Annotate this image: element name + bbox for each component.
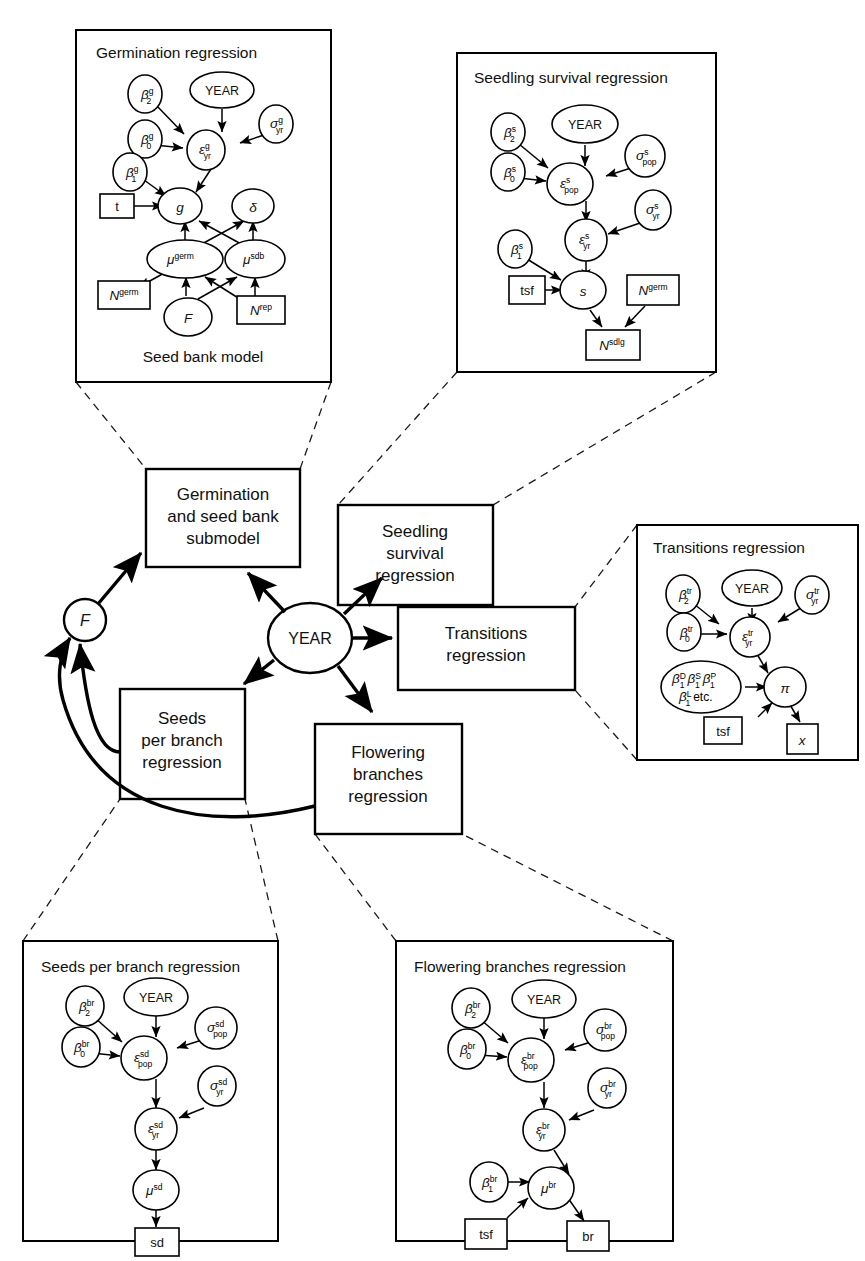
panel-seeds-per-branch-regression: Seeds per branch regression sd βbr2 YEAR… (23, 941, 278, 1256)
box-germination-line1: Germination (177, 485, 270, 504)
box-seedling-line2: survival (386, 544, 444, 563)
figure-canvas: YEAR F Germination and seed bank submode… (0, 0, 865, 1261)
flowering-year-label: YEAR (527, 993, 561, 1007)
transitions-year-label: YEAR (735, 582, 769, 596)
seeds-sd-label: sd (150, 1235, 164, 1250)
panel-flowering-branches-regression: Flowering branches regression tsf br (396, 941, 673, 1251)
box-germination-line2: and seed bank (167, 507, 279, 526)
panel-seedling-survival-regression: Seedling survival regression tsf Ngerm N… (457, 53, 716, 372)
germ-delta-label: δ (249, 200, 257, 215)
germ-F-label: F (184, 311, 193, 326)
flowering-br-label: br (582, 1229, 594, 1244)
germ-g-label: g (176, 200, 184, 215)
panel-germination-title: Germination regression (96, 44, 257, 61)
panel-flowering-title: Flowering branches regression (414, 958, 626, 975)
transitions-node-beta-group[interactable] (661, 661, 741, 713)
box-transitions-line1: Transitions (445, 624, 528, 643)
flowering-tsf-label: tsf (479, 1227, 493, 1242)
box-flowering-line2: branches (353, 765, 423, 784)
box-seeds-line3: regression (142, 753, 221, 772)
germ-year-label: YEAR (205, 84, 239, 98)
box-seeds-line2: per branch (141, 731, 222, 750)
central-f-label: F (80, 612, 91, 629)
box-seeds-line1: Seeds (158, 709, 206, 728)
box-seedling-line1: Seedling (382, 522, 448, 541)
panel-transitions-title: Transitions regression (653, 539, 805, 556)
panel-germination-regression: Germination regression Seed bank model (76, 30, 331, 382)
box-transitions-line2: regression (446, 646, 525, 665)
box-seedling-line3: regression (375, 566, 454, 585)
germ-tsf-label: t (115, 199, 119, 214)
seedling-year-label: YEAR (568, 118, 602, 132)
transitions-pi-label: π (780, 681, 790, 696)
seedling-s-label: s (580, 284, 587, 299)
panel-seedling-title: Seedling survival regression (474, 69, 668, 86)
transitions-tsf-label: tsf (716, 724, 730, 739)
seeds-year-label: YEAR (139, 991, 173, 1005)
central-year-label: YEAR (288, 630, 332, 647)
box-flowering-line1: Flowering (351, 743, 425, 762)
box-germination-line3: submodel (186, 529, 260, 548)
transitions-x-label: x (798, 733, 807, 748)
panel-transitions-regression: Transitions regression tsf x βtr2 (637, 525, 858, 760)
panel-germination-footer: Seed bank model (143, 348, 264, 365)
panel-seeds-title: Seeds per branch regression (41, 958, 240, 975)
seedling-tsf-label: tsf (520, 283, 534, 298)
box-flowering-line3: regression (348, 787, 427, 806)
